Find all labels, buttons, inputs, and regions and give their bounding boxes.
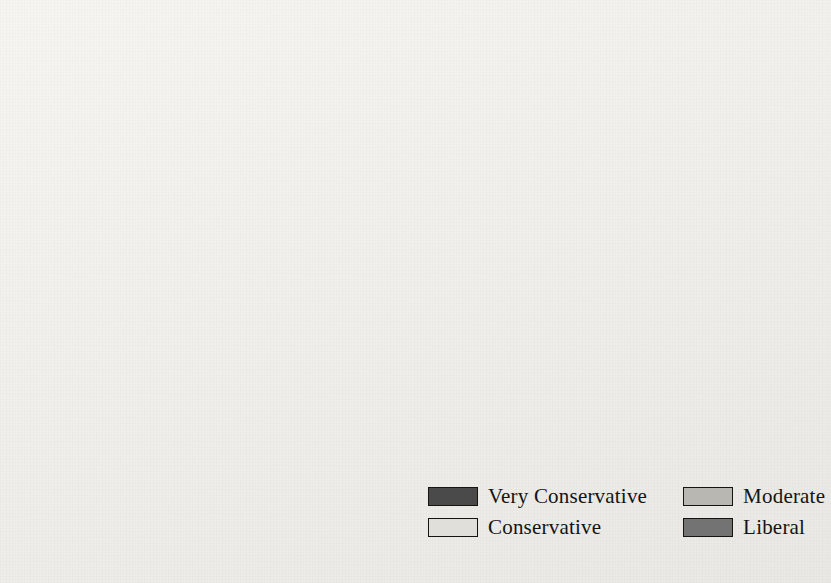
state-label-CA: CA: [87, 242, 112, 261]
state-label-NV: NV: [133, 200, 159, 219]
legend-swatch-liberal: [683, 518, 733, 537]
state-label-DE: DE: [737, 203, 761, 222]
state-label-MT: MT: [248, 89, 275, 108]
legend-label-very-conservative: Very Conservative: [488, 484, 647, 509]
state-label-HI: HI: [224, 489, 243, 508]
legend-label-liberal: Liberal: [743, 515, 825, 540]
state-label-PA: PA: [662, 178, 683, 197]
state-label-CO: CO: [278, 231, 303, 250]
state-label-AK: AK: [97, 516, 123, 535]
state-shape-NM[interactable]: [246, 264, 338, 356]
state-label-AZ: AZ: [186, 300, 210, 319]
state-label-ID: ID: [179, 131, 198, 150]
state-shape-CT[interactable]: [726, 157, 747, 170]
state-label-TN: TN: [549, 284, 573, 303]
state-label-MO: MO: [456, 242, 484, 261]
state-label-WI: WI: [493, 137, 516, 156]
state-label-MS: MS: [508, 339, 534, 358]
leader-line-MD: [708, 223, 737, 238]
state-label-NE: NE: [356, 186, 380, 205]
state-label-NM: NM: [263, 312, 291, 331]
state-label-MN: MN: [427, 113, 455, 132]
state-label-RI: RI: [776, 146, 794, 165]
legend-label-conservative: Conservative: [488, 515, 647, 540]
state-label-NH: NH: [702, 36, 728, 55]
legend-swatch-very-conservative: [428, 487, 478, 506]
map-legend: Very Conservative Moderate Conservative …: [428, 484, 825, 540]
state-shape-ND[interactable]: [330, 34, 422, 124]
state-shape-NE[interactable]: [337, 176, 428, 228]
state-label-MI: MI: [562, 158, 584, 177]
state-label-KS: KS: [380, 241, 403, 260]
legend-label-moderate: Moderate: [743, 484, 825, 509]
state-label-SD: SD: [358, 141, 381, 160]
state-label-ND: ND: [362, 87, 388, 106]
state-label-WY: WY: [259, 155, 288, 174]
state-label-TX: TX: [376, 366, 400, 385]
state-label-OH: OH: [587, 199, 613, 218]
state-label-NC: NC: [660, 276, 685, 295]
state-label-FL: FL: [652, 412, 673, 431]
legend-swatch-moderate: [683, 487, 733, 506]
state-label-WA: WA: [112, 67, 140, 86]
state-label-WV: WV: [620, 229, 650, 248]
state-label-KY: KY: [557, 251, 583, 270]
state-label-NY: NY: [687, 131, 713, 150]
state-label-OR: OR: [101, 117, 126, 136]
state-label-VA: VA: [661, 235, 685, 254]
state-shape-NV[interactable]: [171, 164, 237, 268]
state-label-ME: ME: [743, 77, 770, 96]
state-label-OK: OK: [399, 296, 425, 315]
state-label-AR: AR: [461, 309, 486, 328]
state-label-AL: AL: [554, 335, 578, 354]
state-label-IA: IA: [450, 181, 469, 200]
state-label-LA: LA: [470, 357, 494, 376]
state-label-SC: SC: [634, 304, 656, 323]
state-label-VT: VT: [672, 63, 696, 82]
state-label-UT: UT: [202, 220, 226, 239]
state-label-IN: IN: [551, 211, 570, 230]
leader-line-VT: [697, 82, 715, 118]
state-label-IL: IL: [510, 211, 527, 230]
legend-swatch-conservative: [428, 518, 478, 537]
state-label-MD: MD: [741, 227, 769, 246]
leader-line-NH: [722, 56, 733, 117]
us-ideology-map-page: WAORCANVIDMTWYUTAZNMCONDSDNEKSOKTXMNIAMO…: [0, 0, 831, 583]
state-label-NJ: NJ: [742, 175, 762, 194]
state-label-CT: CT: [783, 171, 806, 190]
state-label-MA: MA: [769, 116, 798, 135]
state-label-GA: GA: [603, 333, 629, 352]
